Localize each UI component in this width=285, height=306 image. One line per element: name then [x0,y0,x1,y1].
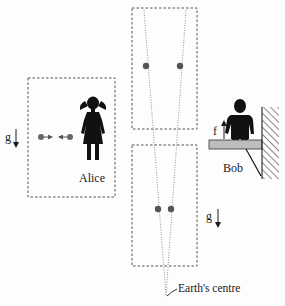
lower-right-particle [168,206,174,212]
gravity-label-left: g [5,131,11,143]
alice-figure-icon [80,97,106,161]
bob-figure-icon [225,99,254,140]
wall-hatch [262,107,279,179]
earth-centre-label: Earth's centre [178,283,240,295]
equivalence-principle-diagram: g g f Alice Bob Earth's centre [0,0,285,306]
diagram-graphics [0,0,285,306]
alice-right-particle [67,134,73,140]
lower-left-particle [155,206,161,212]
bob-platform [209,140,262,149]
earth-centre-pointer [167,289,177,296]
upper-left-particle [143,63,149,69]
platform-strut [246,149,261,176]
upper-right-particle [177,63,183,69]
force-label: f [213,125,217,137]
bob-label: Bob [223,162,243,174]
gravity-label-right: g [206,210,212,222]
upper-falling-frame [132,8,197,129]
right-trajectory-line [166,10,186,296]
alice-left-particle [38,134,44,140]
alice-label: Alice [79,172,105,184]
left-trajectory-line [144,10,166,296]
lower-falling-frame [132,145,197,266]
